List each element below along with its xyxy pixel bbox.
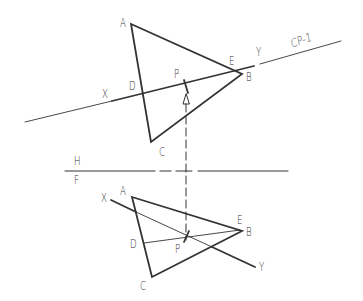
label-b-front: B [246, 226, 252, 238]
label-p-top: P [174, 68, 180, 80]
label-x-top: X [102, 88, 108, 100]
label-h: H [74, 155, 81, 167]
cutting-plane-line-left [25, 101, 112, 122]
label-d-top: D [129, 80, 136, 92]
line-xy-front-hidden [136, 212, 212, 247]
label-f: F [74, 174, 79, 186]
label-a-top: A [120, 17, 126, 29]
label-y-top: Y [256, 46, 262, 58]
label-p-front: P [175, 243, 181, 255]
label-c-front: C [140, 280, 146, 292]
projection-arrow-icon [183, 94, 189, 104]
label-d-front: D [130, 238, 137, 250]
label-x-front: X [101, 192, 107, 204]
label-y-front: Y [259, 261, 265, 273]
line-xy-front-left [111, 200, 136, 212]
label-e-front: E [237, 214, 243, 226]
diagram-svg [0, 0, 363, 301]
label-c-top: C [159, 146, 165, 158]
line-de-front [144, 230, 240, 243]
label-a-front: A [120, 185, 126, 197]
label-e-top: E [229, 55, 235, 67]
diagram-canvas: A E Y CP-1 B P D X C H F X A E B D P Y C [0, 0, 363, 301]
label-b-top: B [246, 71, 252, 83]
line-xy-front-right [212, 247, 255, 267]
